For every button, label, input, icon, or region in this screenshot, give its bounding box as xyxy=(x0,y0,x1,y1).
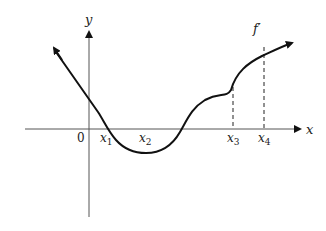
x-axis-label: x xyxy=(306,122,314,137)
x3-label: x3 xyxy=(227,131,240,147)
origin-label: 0 xyxy=(77,131,85,145)
graph-canvas: y x 0 f′ x1 x2 x3 x4 xyxy=(0,0,326,231)
function-label: f′ xyxy=(252,21,261,36)
f-prime-curve xyxy=(56,43,292,153)
y-axis-label: y xyxy=(84,12,93,27)
x2-label: x2 xyxy=(139,131,152,147)
curve-left-arrow xyxy=(54,48,62,60)
x4-label: x4 xyxy=(258,131,271,147)
